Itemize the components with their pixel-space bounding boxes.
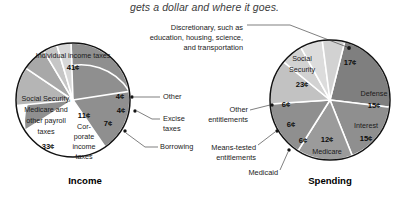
spending-callout-means-tested-line2: entitlements <box>216 153 256 162</box>
spending-dot-medicaid <box>287 148 290 151</box>
spending-leader-other-entitlements <box>250 105 270 110</box>
spending-label-social-security-line2: Security <box>289 65 315 74</box>
income-label-payroll-line4: taxes <box>37 127 55 136</box>
discretionary-note-line3: and transportation <box>183 43 243 52</box>
income-value-other: 4¢ <box>116 92 125 101</box>
spending-leader-medicaid <box>280 152 288 170</box>
discretionary-dot <box>347 46 351 50</box>
spending-dot-other-entitlements <box>270 103 273 106</box>
spending-label-medicare: Medicare <box>312 147 342 156</box>
income-label-corporate-line1: Cor- <box>77 122 92 131</box>
spending-callout-medicaid: Medicaid <box>248 168 278 177</box>
income-callout-other: Other <box>163 92 182 101</box>
spending-value-interest: 15¢ <box>360 134 373 143</box>
income-value-payroll: 33¢ <box>42 142 55 151</box>
spending-value-means-tested: 6¢ <box>287 120 296 129</box>
income-label-payroll-line3: other payroll <box>26 116 66 125</box>
income-label-individual-income-taxes: Individual income taxes <box>36 51 111 60</box>
spending-value-defense: 15¢ <box>368 101 381 110</box>
income-label-corporate-line2: porate <box>74 132 94 141</box>
spending-dot-means-tested <box>275 129 278 132</box>
spending-callout-means-tested-line1: Means-tested <box>211 143 256 152</box>
income-dot-borrowing <box>123 129 126 132</box>
income-dot-other <box>130 95 133 98</box>
spending-label-interest: Interest <box>354 121 378 130</box>
spending-value-medicare: 12¢ <box>321 135 334 144</box>
spending-value-other-entitlements: 6¢ <box>282 100 291 109</box>
income-value-corporate: 11¢ <box>78 111 91 120</box>
pie-charts-canvas: Individual income taxes 41¢ Social Secur… <box>0 0 409 199</box>
income-chart-title: Income <box>68 175 102 186</box>
income-value-excise: 4¢ <box>117 106 126 115</box>
income-label-payroll-line1: Social Security, <box>22 94 71 103</box>
income-leader-excise <box>137 111 160 119</box>
discretionary-note-line2: education, housing, science, <box>150 33 243 42</box>
spending-value-discretionary: 17¢ <box>344 58 357 67</box>
spending-callout-other-entitlements-line2: entitlements <box>208 115 248 124</box>
income-label-corporate-line4: taxes <box>75 152 93 161</box>
spending-leader-means-tested <box>258 132 275 145</box>
spending-value-social-security: 23¢ <box>296 80 309 89</box>
spending-label-social-security-line1: Social <box>292 54 312 63</box>
income-label-payroll-line2: Medicare and <box>24 105 68 114</box>
income-label-corporate-line3: income <box>72 142 95 151</box>
income-callout-excise-line2: taxes <box>163 124 181 133</box>
discretionary-note-line1: Discretionary, such as <box>171 23 243 32</box>
spending-label-defense: Defense <box>361 89 388 98</box>
income-callout-borrowing: Borrowing <box>160 142 193 151</box>
income-value-borrowing: 7¢ <box>104 119 113 128</box>
spending-value-medicaid: 6¢ <box>299 136 308 145</box>
income-dot-excise <box>133 109 136 112</box>
income-callout-excise-line1: Excise <box>163 114 185 123</box>
infographic-root: gets a dollar and where it goes. Individ… <box>0 0 409 199</box>
spending-callout-other-entitlements-line1: Other <box>230 105 249 114</box>
income-value-individual-income-taxes: 41¢ <box>67 63 80 72</box>
income-leader-borrowing <box>126 133 158 147</box>
spending-chart-title: Spending <box>308 175 352 186</box>
